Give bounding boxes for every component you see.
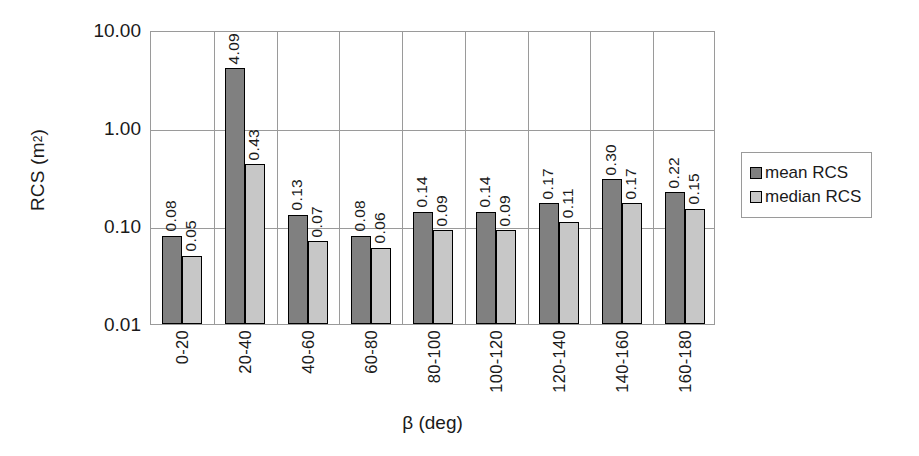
x-axis-tick-labels: 0-2020-4040-6060-8080-100100-120120-1401…: [150, 330, 715, 410]
bar-group-120-140: 0.170.11: [528, 32, 591, 324]
bar-value-label: 0.05: [183, 220, 199, 251]
bar-group-100-120: 0.140.09: [465, 32, 528, 324]
bar-value-label: 0.17: [540, 168, 556, 199]
rcs-bar-chart-figure: RCS (m2) 10.001.000.100.01 0.080.054.090…: [0, 0, 919, 456]
x-axis-tick-140-160: 140-160: [613, 330, 632, 393]
legend-label: median RCS: [765, 187, 861, 207]
x-axis-tick-60-80: 60-80: [362, 330, 381, 374]
bar-mean-rcs-80-100: [413, 212, 433, 324]
legend-swatch-icon: [750, 191, 762, 203]
bar-group-20-40: 4.090.43: [214, 32, 277, 324]
bar-mean-rcs-160-180: [665, 192, 685, 324]
legend-label: mean RCS: [765, 163, 848, 183]
bar-value-label: 0.15: [686, 173, 702, 204]
bar-mean-rcs-120-140: [539, 203, 559, 324]
x-axis-tick-0-20: 0-20: [173, 330, 192, 364]
legend-swatch-icon: [750, 167, 762, 179]
bar-value-label: 0.08: [352, 200, 368, 231]
bar-mean-rcs-40-60: [288, 215, 308, 324]
bar-mean-rcs-60-80: [351, 236, 371, 325]
x-axis-tick-40-60: 40-60: [299, 330, 318, 374]
bar-group-80-100: 0.140.09: [402, 32, 465, 324]
bar-group-60-80: 0.080.06: [339, 32, 402, 324]
bar-value-label: 0.09: [497, 195, 513, 226]
x-axis-tick-80-100: 80-100: [425, 330, 444, 383]
bar-value-label: 0.30: [603, 144, 619, 175]
bar-value-label: 0.17: [623, 168, 639, 199]
chart-legend: mean RCSmedian RCS: [741, 152, 872, 218]
bar-value-label: 0.22: [666, 157, 682, 188]
bar-value-label: 0.14: [477, 176, 493, 207]
bar-value-label: 0.09: [434, 195, 450, 226]
bar-value-label: 0.14: [414, 176, 430, 207]
bar-value-label: 4.09: [226, 33, 242, 64]
bar-value-label: 0.08: [163, 200, 179, 231]
y-axis-tick-labels: 10.001.000.100.01: [45, 31, 150, 325]
bar-mean-rcs-0-20: [162, 236, 182, 325]
x-axis-tick-20-40: 20-40: [236, 330, 255, 374]
bar-median-rcs-160-180: [685, 209, 705, 324]
bar-median-rcs-80-100: [433, 230, 453, 324]
bar-mean-rcs-140-160: [602, 179, 622, 324]
bar-median-rcs-140-160: [622, 203, 642, 324]
x-axis-tick-100-120: 100-120: [487, 330, 506, 393]
x-axis-title: β (deg): [150, 412, 715, 434]
y-axis-tick-0.10: 0.10: [45, 216, 150, 238]
bar-median-rcs-120-140: [559, 222, 579, 324]
bar-value-label: 0.43: [246, 129, 262, 160]
bar-value-label: 0.13: [289, 179, 305, 210]
bar-mean-rcs-20-40: [225, 68, 245, 324]
bar-mean-rcs-100-120: [476, 212, 496, 324]
plot-area: 0.080.054.090.430.130.070.080.060.140.09…: [150, 31, 715, 325]
legend-entry-mean-rcs: mean RCS: [750, 161, 861, 185]
x-axis-tick-120-140: 120-140: [550, 330, 569, 393]
bar-group-0-20: 0.080.05: [151, 32, 214, 324]
y-axis-tick-0.01: 0.01: [45, 314, 150, 336]
bar-group-140-160: 0.300.17: [590, 32, 653, 324]
bar-median-rcs-100-120: [496, 230, 516, 324]
y-axis-tick-10.00: 10.00: [45, 20, 150, 42]
bar-group-160-180: 0.220.15: [653, 32, 716, 324]
bar-group-40-60: 0.130.07: [277, 32, 340, 324]
bar-median-rcs-0-20: [182, 256, 202, 324]
bar-value-label: 0.06: [372, 212, 388, 243]
bar-median-rcs-40-60: [308, 241, 328, 324]
x-axis-tick-160-180: 160-180: [676, 330, 695, 393]
legend-entry-median-rcs: median RCS: [750, 185, 861, 209]
bar-median-rcs-20-40: [245, 164, 265, 324]
bar-value-label: 0.11: [560, 188, 576, 218]
bar-median-rcs-60-80: [371, 248, 391, 324]
y-axis-tick-1.00: 1.00: [45, 118, 150, 140]
bar-value-label: 0.07: [309, 206, 325, 237]
